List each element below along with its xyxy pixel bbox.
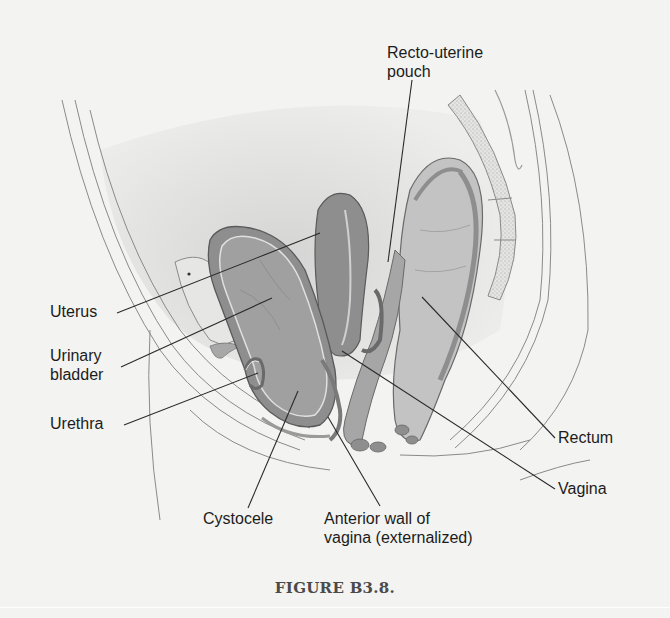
- label-anterior-wall-of-vagina: Anterior wall of vagina (externalized): [324, 509, 473, 547]
- label-uterus: Uterus: [50, 302, 97, 321]
- leader-line-urethra: [124, 373, 258, 425]
- label-recto-uterine-pouch: Recto-uterine pouch: [387, 43, 483, 81]
- label-cystocele: Cystocele: [203, 509, 273, 528]
- label-rectum: Rectum: [558, 428, 613, 447]
- label-vagina: Vagina: [558, 479, 607, 498]
- label-urinary-bladder: Urinary bladder: [50, 346, 103, 384]
- label-urethra: Urethra: [50, 414, 103, 433]
- figure-caption: FIGURE B3.8.: [0, 579, 670, 597]
- caption-divider: [0, 607, 670, 608]
